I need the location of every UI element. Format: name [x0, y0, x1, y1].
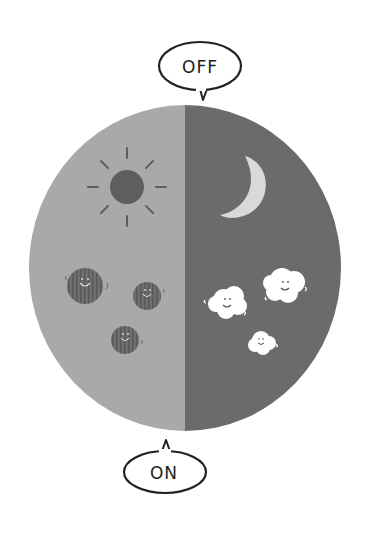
off-speech-bubble: OFF — [159, 42, 241, 100]
off-label: OFF — [182, 57, 218, 77]
on-label: ON — [150, 463, 178, 483]
split-circle — [20, 100, 355, 440]
day-night-diagram: OFF — [0, 0, 369, 541]
on-speech-bubble: ON — [124, 440, 206, 493]
day-half — [20, 100, 185, 440]
night-half — [185, 100, 355, 440]
